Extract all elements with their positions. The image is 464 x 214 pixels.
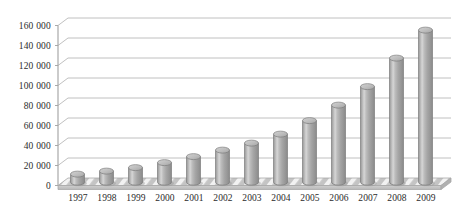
y-axis-tick-label: 40 000 bbox=[0, 141, 51, 151]
bar-cylinder bbox=[187, 154, 204, 187]
bar-cylinder bbox=[245, 140, 262, 186]
x-axis-labels: 1997199819992000200120022003200420052006… bbox=[0, 193, 464, 209]
bar-cylinder bbox=[303, 118, 320, 187]
y-axis-tick-label: 100 000 bbox=[0, 81, 51, 91]
x-axis-tick-label: 2000 bbox=[150, 193, 180, 203]
chart-plot-area bbox=[0, 0, 464, 214]
y-axis-tick-label: 80 000 bbox=[0, 101, 51, 111]
y-axis-tick-label: 0 bbox=[0, 181, 51, 191]
bar-cylinder bbox=[129, 165, 146, 187]
y-axis-tick-label: 60 000 bbox=[0, 121, 51, 131]
bar-cylinder bbox=[419, 27, 436, 186]
x-axis-tick-label: 2007 bbox=[353, 193, 383, 203]
bar-cylinder bbox=[216, 147, 233, 186]
bar-series bbox=[71, 27, 436, 186]
x-axis-tick-label: 1998 bbox=[92, 193, 122, 203]
x-axis-tick-label: 1997 bbox=[63, 193, 93, 203]
x-axis-tick-label: 2001 bbox=[179, 193, 209, 203]
bar-cylinder bbox=[274, 131, 291, 186]
bar-chart: 020 00040 00060 00080 000100 000120 0001… bbox=[0, 0, 464, 214]
bar-cylinder bbox=[158, 160, 175, 187]
bar-cylinder bbox=[332, 102, 349, 186]
y-axis-labels: 020 00040 00060 00080 000100 000120 0001… bbox=[0, 0, 51, 214]
bar-cylinder bbox=[71, 171, 88, 186]
y-axis-tick-label: 20 000 bbox=[0, 161, 51, 171]
bar-cylinder bbox=[390, 55, 407, 186]
x-axis-tick-label: 2008 bbox=[382, 193, 412, 203]
bar-cylinder bbox=[100, 168, 117, 186]
x-axis-tick-label: 2009 bbox=[411, 193, 441, 203]
x-axis-tick-label: 2005 bbox=[295, 193, 325, 203]
x-axis-tick-label: 2006 bbox=[324, 193, 354, 203]
x-axis-tick-label: 2002 bbox=[208, 193, 238, 203]
y-axis-tick-label: 140 000 bbox=[0, 41, 51, 51]
y-axis-tick-label: 160 000 bbox=[0, 21, 51, 31]
bar-cylinder bbox=[361, 84, 378, 187]
x-axis-tick-label: 1999 bbox=[121, 193, 151, 203]
x-axis-tick-label: 2004 bbox=[266, 193, 296, 203]
x-axis-tick-label: 2003 bbox=[237, 193, 267, 203]
y-axis-tick-label: 120 000 bbox=[0, 61, 51, 71]
